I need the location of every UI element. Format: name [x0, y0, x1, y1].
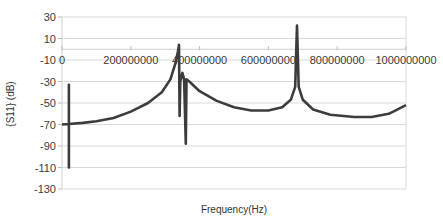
y-tick-label: -30 [40, 76, 56, 88]
y-tick-label: 30 [44, 11, 56, 23]
x-tick-label: 600000000 [241, 54, 296, 66]
y-tick-label: -70 [40, 119, 56, 131]
y-tick-label: -90 [40, 140, 56, 152]
y-axis-ticks: 3010-10-30-50-70-90-110-130 [34, 11, 56, 195]
gridlines [58, 17, 406, 189]
y-tick-label: -10 [40, 54, 56, 66]
y-tick-label: -110 [35, 162, 56, 174]
y-tick-label: -50 [40, 97, 56, 109]
x-axis-label: Frequency(Hz) [201, 204, 267, 215]
x-tick-label: 1000000000 [375, 54, 436, 66]
s11-chart: 3010-10-30-50-70-90-110-130 020000000040… [0, 0, 443, 219]
x-tick-label: 200000000 [103, 54, 158, 66]
y-tick-label: 10 [44, 33, 56, 45]
x-tick-label: 800000000 [310, 54, 365, 66]
y-tick-label: -130 [34, 183, 56, 195]
y-axis-label: {S11} (dB) [5, 81, 16, 126]
x-tick-label: 0 [59, 54, 65, 66]
